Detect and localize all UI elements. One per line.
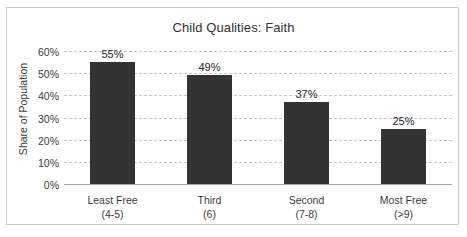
y-tick-label: 20% <box>38 135 59 147</box>
y-tick-label: 30% <box>38 113 59 125</box>
bar-value-label: 55% <box>90 48 135 60</box>
bar[interactable] <box>187 75 232 184</box>
x-tick-label: Second(7-8) <box>258 193 355 221</box>
x-tick-label: Most Free(>9) <box>355 193 452 221</box>
y-tick-label: 60% <box>38 46 59 58</box>
bar[interactable] <box>90 62 135 184</box>
axis-baseline: 0% <box>64 184 452 185</box>
chart-title: Child Qualities: Faith <box>7 20 460 35</box>
bar[interactable] <box>284 102 329 184</box>
x-tick-label-main: Second <box>289 194 325 206</box>
bar-value-label: 25% <box>381 115 426 127</box>
y-tick-label: 50% <box>38 68 59 80</box>
chart-container: Child Qualities: Faith Share of Populati… <box>0 0 467 237</box>
x-tick-label: Third(6) <box>161 193 258 221</box>
x-tick-label-range: (6) <box>161 207 258 221</box>
x-tick-label-range: (7-8) <box>258 207 355 221</box>
bar-group: 25%Most Free(>9) <box>381 51 426 184</box>
y-axis-title: Share of Population <box>17 49 29 169</box>
bar-group: 49%Third(6) <box>187 51 232 184</box>
bar-group: 37%Second(7-8) <box>284 51 329 184</box>
bar-group: 55%Least Free(4-5) <box>90 51 135 184</box>
x-tick-label-main: Third <box>198 194 222 206</box>
bar-value-label: 49% <box>187 61 232 73</box>
y-tick-label: 0% <box>44 179 59 191</box>
chart-frame: Child Qualities: Faith Share of Populati… <box>6 7 459 225</box>
x-tick-label-main: Most Free <box>380 194 427 206</box>
plot-area: 60%50%40%30%20%10%0%55%Least Free(4-5)49… <box>64 51 452 184</box>
x-tick-label: Least Free(4-5) <box>64 193 161 221</box>
bar[interactable] <box>381 129 426 184</box>
bar-value-label: 37% <box>284 88 329 100</box>
y-tick-label: 10% <box>38 157 59 169</box>
x-tick-label-main: Least Free <box>87 194 137 206</box>
x-tick-label-range: (>9) <box>355 207 452 221</box>
x-tick-label-range: (4-5) <box>64 207 161 221</box>
y-tick-label: 40% <box>38 90 59 102</box>
